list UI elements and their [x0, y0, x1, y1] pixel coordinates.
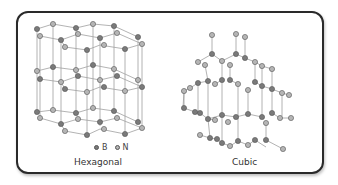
nitrogen-dot-icon [115, 145, 120, 150]
hexagonal-structure [37, 24, 142, 135]
atom-legend: B N [94, 143, 128, 152]
legend-n-label: N [123, 143, 129, 152]
crystal-structures-diagram [0, 0, 338, 185]
boron-dot-icon [94, 145, 99, 150]
legend-b-label: B [102, 143, 108, 152]
hexagonal-label: Hexagonal [74, 157, 122, 167]
cubic-structure [183, 34, 291, 149]
cubic-label: Cubic [232, 157, 257, 167]
